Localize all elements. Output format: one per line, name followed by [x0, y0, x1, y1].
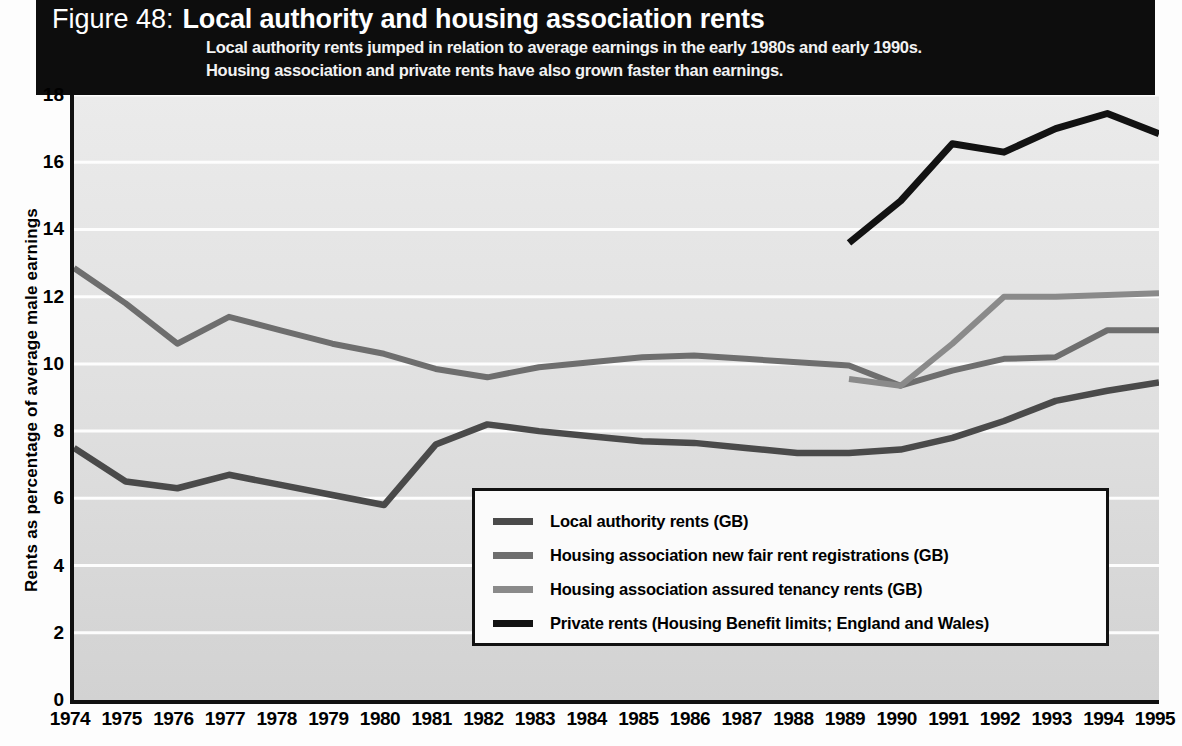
y-tick-label: 2	[24, 623, 64, 642]
y-tick-label: 8	[24, 421, 64, 440]
data-series-group	[74, 113, 1159, 505]
y-tick-label: 14	[24, 219, 64, 238]
legend-item[interactable]: Local authority rents (GB)	[475, 504, 1106, 538]
figure-container: Figure 48:Local authority and housing as…	[0, 0, 1182, 746]
legend-label: Housing association new fair rent regist…	[550, 546, 949, 565]
y-tick-label: 6	[24, 488, 64, 507]
y-tick-label: 0	[24, 690, 64, 709]
figure-header-band: Figure 48:Local authority and housing as…	[36, 0, 1155, 95]
x-axis-tick-labels: 1974197519761977197819791980198119821983…	[70, 708, 1155, 738]
figure-number: Figure 48:	[52, 4, 174, 34]
subtitle-line-1: Local authority rents jumped in relation…	[206, 38, 922, 57]
legend-item[interactable]: Private rents (Housing Benefit limits; E…	[475, 606, 1106, 640]
y-tick-label: 4	[24, 556, 64, 575]
x-tick-label: 1995	[1124, 708, 1182, 730]
legend-swatch-icon	[493, 586, 533, 593]
chart-legend: Local authority rents (GB)Housing associ…	[472, 488, 1109, 646]
series-line-ha-assured-tenancy	[849, 293, 1159, 385]
legend-label: Local authority rents (GB)	[550, 512, 748, 531]
page-title: Local authority and housing association …	[183, 4, 765, 34]
series-line-local-authority	[74, 382, 1159, 505]
legend-item[interactable]: Housing association assured tenancy rent…	[475, 572, 1106, 606]
y-tick-label: 10	[24, 354, 64, 373]
legend-swatch-icon	[493, 518, 533, 525]
legend-swatch-icon	[493, 620, 533, 627]
legend-swatch-icon	[493, 552, 533, 559]
legend-label: Housing association assured tenancy rent…	[550, 580, 922, 599]
series-line-private-rents	[849, 113, 1159, 242]
y-axis-tick-labels: 024681012141618	[18, 0, 64, 746]
subtitle-line-2: Housing association and private rents ha…	[206, 61, 783, 80]
title-row: Figure 48:Local authority and housing as…	[52, 4, 765, 35]
legend-item[interactable]: Housing association new fair rent regist…	[475, 538, 1106, 572]
y-tick-label: 18	[24, 85, 64, 104]
series-line-ha-fair-rent	[74, 268, 1159, 386]
legend-label: Private rents (Housing Benefit limits; E…	[550, 614, 989, 633]
y-tick-label: 12	[24, 287, 64, 306]
y-tick-label: 16	[24, 152, 64, 171]
